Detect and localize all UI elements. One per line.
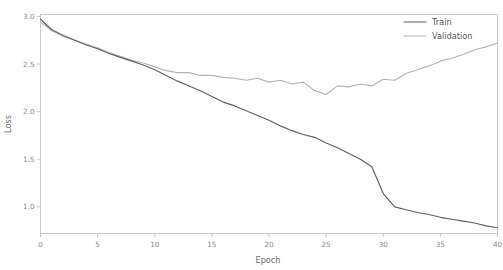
chart-canvas: 0510152025303540 1.01.52.02.53.0 Epoch L… [0,0,503,270]
x-tick-label: 20 [264,240,274,249]
clipped-top-text [0,0,503,4]
x-tick-label: 40 [493,240,503,249]
validation-series-line [41,22,498,94]
plot-frame [41,15,498,234]
y-tick-label: 2.0 [23,107,35,116]
legend: Train Validation [404,17,472,41]
x-tick-label: 0 [38,240,43,249]
x-tick-label: 25 [322,240,331,249]
x-axis-ticks: 0510152025303540 [38,234,502,249]
x-tick-label: 35 [436,240,445,249]
loss-curve-figure: 0510152025303540 1.01.52.02.53.0 Epoch L… [0,0,503,270]
legend-label-train: Train [431,17,452,27]
x-tick-label: 15 [207,240,216,249]
y-tick-label: 3.0 [23,12,35,21]
x-tick-label: 10 [150,240,160,249]
y-tick-label: 1.0 [23,202,35,211]
y-tick-label: 2.5 [23,60,34,69]
x-tick-label: 5 [95,240,100,249]
y-tick-label: 1.5 [23,155,34,164]
y-axis-label: Loss [3,115,13,133]
x-tick-label: 30 [379,240,389,249]
train-series-line [41,19,498,228]
y-axis-ticks: 1.01.52.02.53.0 [23,12,40,211]
legend-label-validation: Validation [432,31,472,41]
x-axis-label: Epoch [255,255,280,265]
